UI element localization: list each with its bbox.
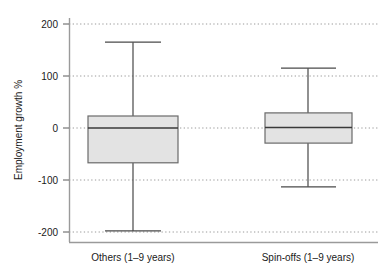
x-category-label-others: Others (1–9 years) (91, 252, 174, 263)
y-axis-title: Employment growth % (13, 80, 24, 180)
boxplot-chart: 200 100 0 -100 -200 Employment growth % (0, 0, 391, 274)
x-category-label-spinoffs: Spin-offs (1–9 years) (262, 252, 355, 263)
y-tick-label-100: 100 (41, 71, 58, 82)
y-tick-label-neg200: -200 (38, 227, 58, 238)
box-others (88, 116, 178, 163)
chart-canvas: 200 100 0 -100 -200 Employment growth % (0, 0, 391, 274)
y-tick-label-neg100: -100 (38, 175, 58, 186)
y-tick-label-200: 200 (41, 19, 58, 30)
y-tick-label-0: 0 (52, 123, 58, 134)
y-axis-ticks (63, 24, 69, 232)
